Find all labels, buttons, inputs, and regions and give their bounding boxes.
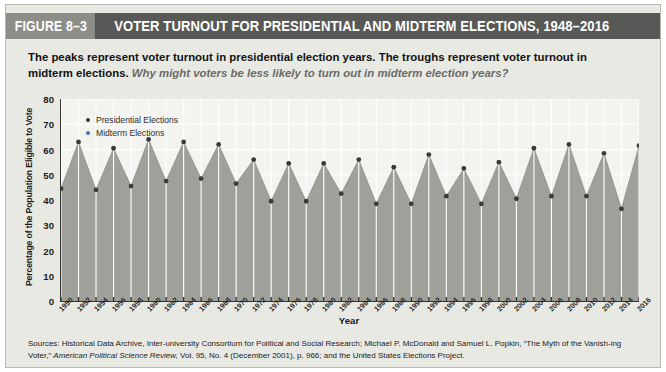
midterm-data-point bbox=[234, 181, 239, 186]
y-tick-label: 40 bbox=[32, 195, 54, 206]
y-tick-label: 80 bbox=[32, 94, 54, 105]
chart-legend: Presidential Elections Midterm Elections bbox=[86, 113, 178, 139]
y-tick-label: 10 bbox=[32, 270, 54, 281]
presidential-data-point bbox=[356, 157, 361, 162]
presidential-data-point bbox=[602, 151, 607, 156]
figure-title-bar: FIGURE 8–3 VOTER TURNOUT FOR PRESIDENTIA… bbox=[6, 13, 660, 39]
y-tick-label: 30 bbox=[32, 220, 54, 231]
midterm-data-point bbox=[584, 194, 589, 199]
midterm-data-point bbox=[269, 199, 274, 204]
presidential-data-point bbox=[426, 152, 431, 157]
y-axis-ticks: 01020304050607080 bbox=[28, 99, 54, 301]
sources-line-1: Sources: Historical Data Archive, Inter-… bbox=[28, 339, 611, 348]
midterm-data-point bbox=[479, 201, 484, 206]
presidential-data-point bbox=[286, 161, 291, 166]
legend-label-midterm: Midterm Elections bbox=[96, 128, 164, 138]
sources-line-2-end: Vol. 95, No. 4 (December 2001), p. 966; … bbox=[178, 351, 465, 360]
midterm-data-point bbox=[339, 191, 344, 196]
midterm-data-point bbox=[129, 184, 134, 189]
y-tick-label: 70 bbox=[32, 119, 54, 130]
chart: Percentage of the Population Eligible to… bbox=[28, 99, 642, 331]
presidential-legend-dot bbox=[86, 118, 90, 122]
midterm-data-point bbox=[94, 188, 99, 193]
figure-subtitle: The peaks represent voter turnout in pre… bbox=[28, 49, 628, 81]
presidential-data-point bbox=[216, 142, 221, 147]
legend-item-midterm: Midterm Elections bbox=[86, 126, 178, 139]
midterm-data-point bbox=[374, 201, 379, 206]
presidential-data-point bbox=[496, 160, 501, 165]
figure-container: FIGURE 8–3 VOTER TURNOUT FOR PRESIDENTIA… bbox=[0, 0, 666, 372]
presidential-data-point bbox=[637, 143, 639, 148]
midterm-data-point bbox=[304, 199, 309, 204]
presidential-data-point bbox=[567, 142, 572, 147]
x-axis-label: Year bbox=[60, 315, 638, 326]
midterm-data-point bbox=[514, 196, 519, 201]
midterm-data-point bbox=[164, 179, 169, 184]
midterm-data-point bbox=[409, 201, 414, 206]
figure-number-tag: FIGURE 8–3 bbox=[6, 13, 95, 39]
midterm-data-point bbox=[444, 194, 449, 199]
legend-label-presidential: Presidential Elections bbox=[96, 115, 178, 125]
y-tick-label: 0 bbox=[32, 296, 54, 307]
y-tick-label: 50 bbox=[32, 169, 54, 180]
y-tick-label: 20 bbox=[32, 245, 54, 256]
presidential-data-point bbox=[181, 140, 186, 145]
midterm-legend-dot bbox=[86, 131, 90, 135]
presidential-data-point bbox=[111, 146, 116, 151]
presidential-data-point bbox=[461, 166, 466, 171]
figure-sources-note: Sources: Historical Data Archive, Inter-… bbox=[28, 338, 646, 361]
presidential-data-point bbox=[251, 157, 256, 162]
sources-journal-title: American Political Science Review, bbox=[53, 351, 178, 360]
presidential-data-point bbox=[321, 161, 326, 166]
presidential-data-point bbox=[391, 165, 396, 170]
presidential-data-point bbox=[532, 146, 537, 151]
figure-panel: FIGURE 8–3 VOTER TURNOUT FOR PRESIDENTIA… bbox=[5, 4, 661, 368]
figure-title: VOTER TURNOUT FOR PRESIDENTIAL AND MIDTE… bbox=[107, 13, 609, 39]
turnout-area-fill bbox=[61, 139, 639, 301]
y-tick-label: 60 bbox=[32, 144, 54, 155]
legend-item-presidential: Presidential Elections bbox=[86, 113, 178, 126]
midterm-data-point bbox=[549, 194, 554, 199]
presidential-data-point bbox=[76, 140, 81, 145]
midterm-data-point bbox=[199, 176, 204, 181]
midterm-data-point bbox=[619, 206, 624, 211]
subtitle-question-prompt: Why might voters be less likely to turn … bbox=[132, 67, 509, 79]
